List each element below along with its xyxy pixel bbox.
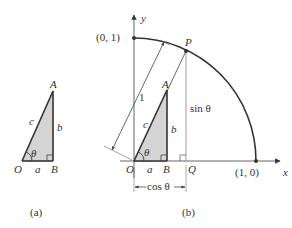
label-b-a: b — [57, 121, 63, 133]
point-unit-y — [132, 36, 136, 40]
right-angle-mark-Q — [180, 155, 186, 161]
label-cos-theta: cos θ — [147, 180, 170, 192]
x-axis-label: x — [282, 166, 288, 178]
label-a-a: a — [35, 163, 41, 175]
label-B-a: B — [51, 163, 58, 175]
dimension-tick-bottom — [104, 146, 132, 160]
label-c-b: c — [143, 118, 148, 130]
label-O-b: O — [126, 163, 134, 175]
label-A-b: A — [161, 78, 169, 90]
figure-a: A c b θ O a B (a) — [14, 78, 63, 219]
label-a-b: a — [147, 163, 153, 175]
label-P: P — [184, 36, 192, 48]
y-axis-label: y — [140, 12, 146, 24]
point-P — [184, 49, 188, 53]
label-b-b: b — [171, 123, 177, 135]
label-Q: Q — [188, 163, 196, 175]
label-unit-y: (0, 1) — [96, 31, 120, 44]
label-theta-b: θ — [144, 146, 150, 158]
point-unit-x — [254, 159, 258, 163]
label-c-a: c — [29, 115, 34, 127]
label-unit-x: (1, 0) — [235, 166, 259, 179]
label-O-a: O — [14, 163, 22, 175]
label-B-b: B — [163, 163, 170, 175]
figure-b: y x (0, 1) (1, 0) P 1 A c b θ sin θ O — [96, 12, 288, 219]
label-A-a: A — [49, 78, 57, 90]
label-sin-theta: sin θ — [190, 102, 211, 114]
label-radius-one: 1 — [139, 91, 145, 103]
caption-a: (a) — [30, 206, 43, 219]
label-theta-a: θ — [31, 147, 37, 159]
trig-diagram: A c b θ O a B (a) y x (0, 1) (1, 0) P 1 — [0, 0, 292, 228]
caption-b: (b) — [182, 206, 195, 219]
